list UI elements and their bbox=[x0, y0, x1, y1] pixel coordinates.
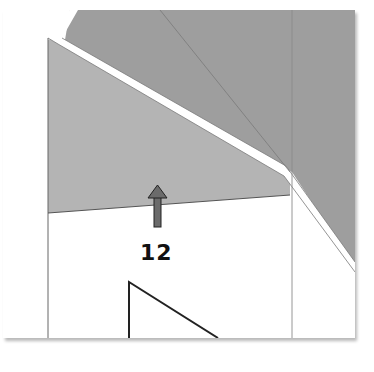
triangle-outline bbox=[129, 282, 218, 338]
wall-diagram bbox=[3, 10, 355, 338]
diagram-frame bbox=[3, 10, 355, 338]
dimension-label: 12 bbox=[140, 240, 173, 265]
